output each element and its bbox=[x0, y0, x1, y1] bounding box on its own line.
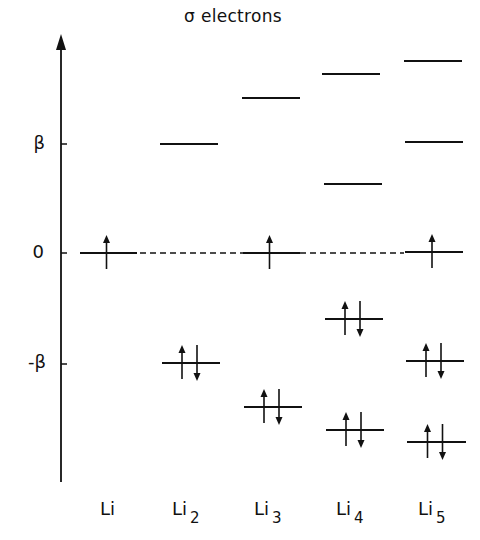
energy-level-diagram bbox=[0, 0, 480, 540]
spin-down-arrow-icon bbox=[358, 440, 365, 448]
spin-up-arrow-icon bbox=[343, 412, 350, 420]
molecule-levels-li3 bbox=[242, 98, 302, 425]
spin-up-arrow-icon bbox=[261, 389, 268, 397]
spin-up-arrow-icon bbox=[429, 234, 436, 242]
spin-up-arrow-icon bbox=[423, 343, 430, 351]
diagram-title: σ electrons bbox=[0, 6, 466, 26]
energy-level bbox=[244, 389, 302, 425]
label-li2-subscript: 2 bbox=[190, 509, 200, 527]
tick-label-minus-beta: -β bbox=[6, 351, 46, 372]
energy-level bbox=[406, 343, 464, 379]
spin-down-arrow-icon bbox=[276, 417, 283, 425]
spin-down-arrow-icon bbox=[438, 371, 445, 379]
label-li3-name: Li bbox=[254, 498, 269, 519]
label-li2-name: Li bbox=[172, 498, 187, 519]
orbital-levels bbox=[80, 61, 466, 460]
label-li3-subscript: 3 bbox=[272, 509, 282, 527]
energy-level bbox=[80, 235, 137, 269]
label-li-name: Li bbox=[100, 498, 115, 519]
energy-axis bbox=[56, 34, 67, 482]
spin-up-arrow-icon bbox=[179, 345, 186, 353]
spin-up-arrow-icon bbox=[424, 424, 431, 432]
molecule-levels-li4 bbox=[322, 74, 384, 448]
label-li5-subscript: 5 bbox=[436, 509, 446, 527]
molecule-levels-li2 bbox=[160, 144, 220, 381]
tick-label-zero: 0 bbox=[4, 241, 44, 262]
axis-arrow-icon bbox=[56, 34, 66, 50]
molecule-levels-li5 bbox=[404, 61, 466, 460]
energy-level bbox=[325, 301, 383, 337]
label-li3: Li3 bbox=[254, 498, 282, 519]
energy-level bbox=[405, 234, 463, 268]
label-li4-name: Li bbox=[336, 498, 351, 519]
spin-up-arrow-icon bbox=[342, 301, 349, 309]
energy-level bbox=[407, 424, 466, 460]
spin-down-arrow-icon bbox=[439, 452, 446, 460]
spin-up-arrow-icon bbox=[103, 235, 110, 243]
spin-up-arrow-icon bbox=[266, 235, 273, 243]
tick-label-beta: β bbox=[5, 132, 45, 153]
label-li4: Li4 bbox=[336, 498, 364, 519]
energy-level bbox=[326, 412, 384, 448]
energy-level bbox=[243, 235, 300, 269]
spin-down-arrow-icon bbox=[194, 373, 201, 381]
label-li4-subscript: 4 bbox=[354, 509, 364, 527]
label-li2: Li2 bbox=[172, 498, 200, 519]
energy-level bbox=[162, 345, 220, 381]
spin-down-arrow-icon bbox=[357, 329, 364, 337]
label-li: Li bbox=[100, 498, 118, 519]
molecule-levels-li bbox=[80, 235, 137, 269]
label-li5: Li5 bbox=[418, 498, 446, 519]
label-li5-name: Li bbox=[418, 498, 433, 519]
